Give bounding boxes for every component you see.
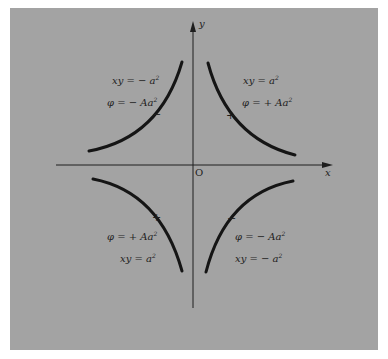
hyperbola-diagram: [0, 0, 388, 359]
tl-potential: φ = − Aa2: [107, 97, 157, 108]
bl-equation: xy = a2: [120, 253, 156, 264]
tr-sign: +: [226, 110, 235, 121]
bl-sign: +: [152, 212, 161, 223]
origin-label: O: [195, 168, 203, 178]
tr-equation: xy = a2: [243, 75, 279, 86]
tl-equation: xy = − a2: [112, 75, 159, 86]
br-sign: −: [227, 213, 236, 224]
br-equation: xy = − a2: [235, 253, 282, 264]
y-axis-label: y: [199, 19, 205, 29]
bl-potential: φ = + Aa2: [107, 231, 157, 242]
tl-sign: −: [152, 109, 161, 120]
x-axis-label: x: [325, 168, 331, 178]
y-axis-arrow-icon: [190, 21, 196, 32]
br-potential: φ = − Aa2: [235, 231, 285, 242]
tr-potential: φ = + Aa2: [242, 97, 292, 108]
